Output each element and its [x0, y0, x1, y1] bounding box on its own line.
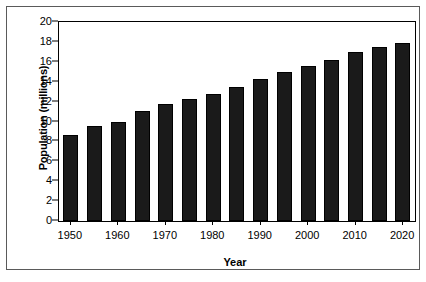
bar [135, 111, 150, 221]
x-tick-label: 2020 [377, 229, 426, 241]
bar [348, 52, 363, 221]
bar [63, 135, 78, 221]
bar [277, 72, 292, 221]
plot-area [58, 21, 416, 222]
bar [206, 94, 221, 221]
bar [111, 122, 126, 222]
bar [395, 43, 410, 221]
x-tick-label: 1950 [45, 229, 95, 241]
x-tick-label: 2010 [330, 229, 380, 241]
x-tick-label: 1970 [140, 229, 190, 241]
x-tick-mark [402, 220, 403, 225]
bar [253, 79, 268, 221]
bar-series [59, 22, 415, 221]
x-axis-ticks: 19501960197019801990200020102020 [58, 220, 415, 252]
x-axis-title: Year [60, 256, 410, 268]
x-tick-label: 1990 [235, 229, 285, 241]
x-tick-mark [212, 220, 213, 225]
chart-figure: Population (millions) 02468101214161820 … [0, 0, 426, 282]
y-axis-ticks: 02468101214161820 [0, 21, 58, 220]
x-tick-label: 2000 [282, 229, 332, 241]
x-tick-label: 1960 [92, 229, 142, 241]
x-tick-mark [260, 220, 261, 225]
x-tick-mark [165, 220, 166, 225]
bar [324, 60, 339, 221]
x-tick-label: 1980 [187, 229, 237, 241]
x-tick-mark [307, 220, 308, 225]
bar [158, 104, 173, 221]
x-tick-mark [355, 220, 356, 225]
bar [182, 99, 197, 221]
bar [229, 87, 244, 221]
x-tick-mark [70, 220, 71, 225]
bar [87, 126, 102, 221]
bar [372, 47, 387, 221]
x-tick-mark [117, 220, 118, 225]
bar [301, 66, 316, 221]
